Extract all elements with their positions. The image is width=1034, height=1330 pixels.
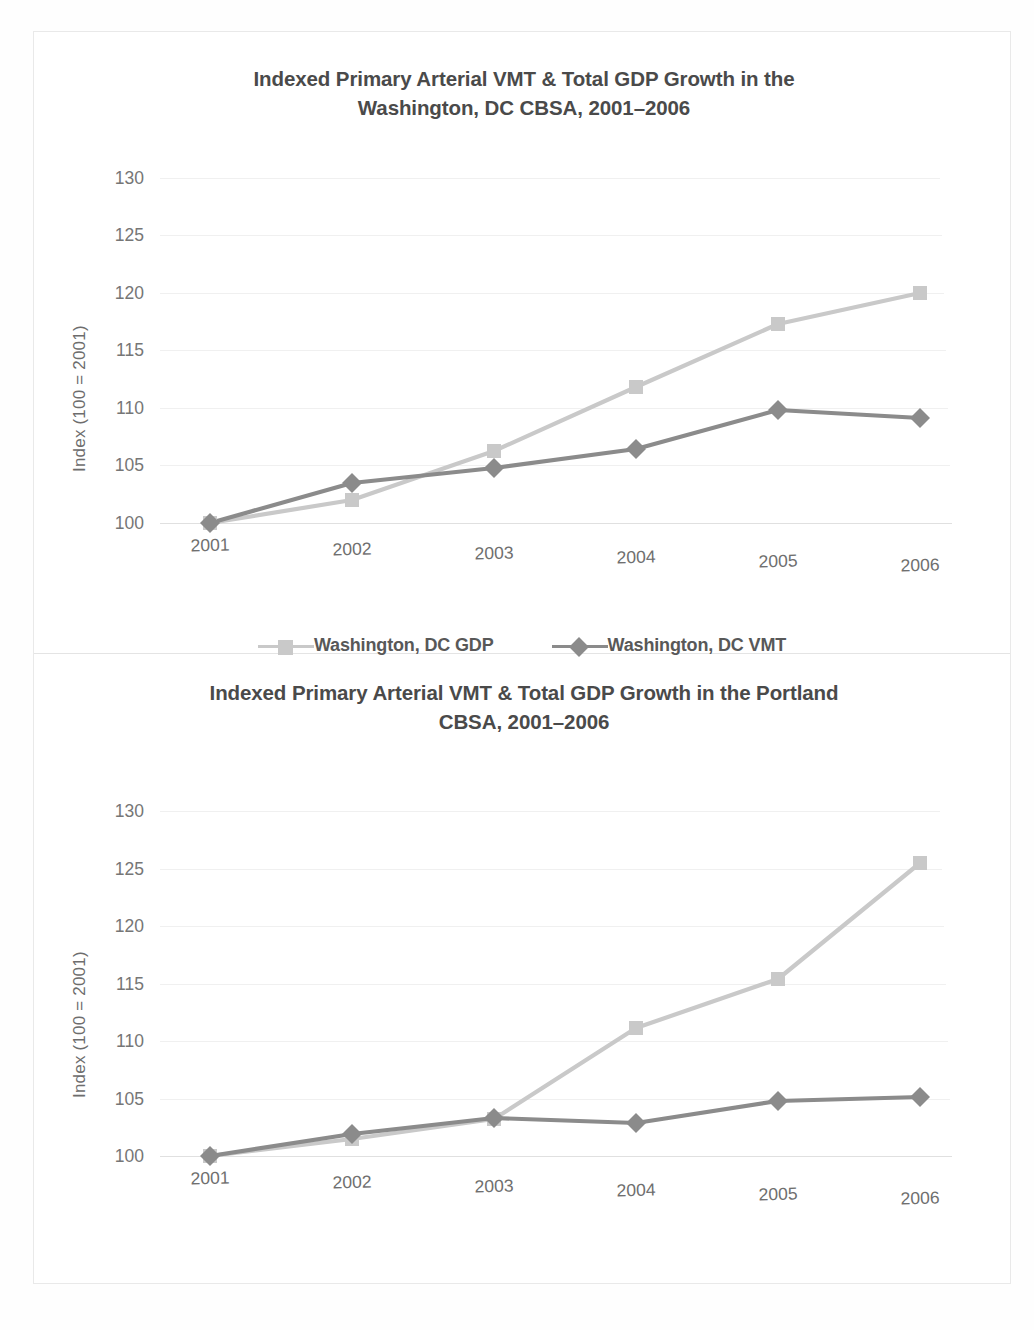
legend-swatch-diamond-icon [552, 637, 608, 655]
x-tick-2001: 2001 [175, 534, 246, 557]
x-tick-2005: 2005 [743, 1183, 814, 1206]
series-plot-washington [34, 32, 1010, 592]
x-tick-2002: 2002 [317, 1171, 388, 1194]
legend-washington: Washington, DC GDP Washington, DC VMT [34, 635, 1010, 656]
series-line-vmt [210, 1097, 920, 1156]
legend-label-vmt: Washington, DC VMT [608, 635, 787, 656]
plot-area-portland: Index (100 = 2001) 130 125 120 115 110 1… [34, 655, 1010, 1215]
legend-item-vmt[interactable]: Washington, DC VMT [552, 635, 787, 656]
series-line-gdp [210, 293, 920, 523]
x-tick-2006: 2006 [885, 554, 956, 577]
chart-washington: Indexed Primary Arterial VMT & Total GDP… [34, 32, 1010, 652]
x-tick-2003: 2003 [459, 1175, 530, 1198]
legend-label-gdp: Washington, DC GDP [314, 635, 494, 656]
series-line-gdp [210, 863, 920, 1156]
x-tick-2004: 2004 [601, 546, 672, 569]
x-tick-2005: 2005 [743, 550, 814, 573]
document-page: Indexed Primary Arterial VMT & Total GDP… [0, 0, 1034, 1330]
x-tick-2002: 2002 [317, 538, 388, 561]
legend-swatch-square-icon [258, 637, 314, 655]
chart-portland: Indexed Primary Arterial VMT & Total GDP… [34, 655, 1010, 1283]
plot-area-washington: Index (100 = 2001) 130 125 120 115 110 1… [34, 32, 1010, 592]
x-tick-2006: 2006 [885, 1187, 956, 1210]
legend-item-gdp[interactable]: Washington, DC GDP [258, 635, 494, 656]
x-tick-2001: 2001 [175, 1167, 246, 1190]
series-markers-gdp [203, 856, 927, 1163]
x-tick-2003: 2003 [459, 542, 530, 565]
x-tick-2004: 2004 [601, 1179, 672, 1202]
series-plot-portland [34, 655, 1010, 1215]
